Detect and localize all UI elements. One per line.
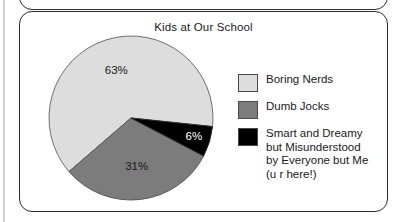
page-margin-line: [3, 0, 5, 222]
chart-legend: Boring Nerds Dumb Jocks Smart and Dreamy…: [238, 73, 388, 181]
chart-title: Kids at Our School: [20, 21, 387, 33]
legend-item-boring-nerds[interactable]: Boring Nerds: [238, 73, 388, 92]
pie-slice-label-dumb-jocks: 31%: [125, 160, 148, 172]
legend-item-dumb-jocks[interactable]: Dumb Jocks: [238, 100, 388, 119]
legend-label-dumb-jocks: Dumb Jocks: [266, 100, 329, 114]
pie-slice-label-smart-and-dreamy: 6%: [185, 130, 202, 142]
legend-label-smart-and-dreamy: Smart and Dreamy but Misunderstood by Ev…: [266, 127, 368, 181]
pie-chart: 63% 31% 6%: [46, 33, 216, 203]
legend-item-smart-and-dreamy[interactable]: Smart and Dreamy but Misunderstood by Ev…: [238, 127, 388, 181]
legend-swatch-icon-smart-and-dreamy: [238, 128, 258, 146]
legend-swatch-icon-dumb-jocks: [238, 101, 258, 119]
panel-above-cropped: [19, 0, 388, 10]
pie-chart-svg: 63% 31% 6%: [46, 33, 216, 203]
pie-slice-label-boring-nerds: 63%: [105, 64, 128, 76]
legend-label-boring-nerds: Boring Nerds: [266, 73, 333, 87]
chart-panel: Kids at Our School 63% 31% 6% Boring Ner…: [19, 11, 388, 212]
legend-swatch-icon-boring-nerds: [238, 74, 258, 92]
